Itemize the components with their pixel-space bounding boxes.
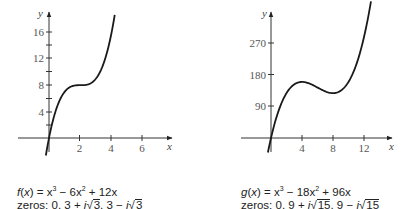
- right-x-tick-12: 12: [359, 142, 370, 154]
- left-y-axis-label: y: [37, 7, 43, 19]
- left-x-tick-2: 2: [77, 142, 83, 154]
- left-curve-fx: [46, 15, 115, 156]
- left-x-tick-6: 6: [139, 142, 145, 154]
- left-y-tick-12: 12: [33, 52, 44, 64]
- left-y-tick-8: 8: [39, 79, 45, 91]
- left-chart: y x 16 12 8 4 2 4 6: [18, 7, 172, 155]
- charts-canvas: y x 16 12 8 4 2 4 6 y x: [0, 0, 409, 209]
- left-zeros-label: zeros: 0, 3 + i√3, 3 − i√3: [17, 199, 142, 209]
- right-y-tick-180: 180: [250, 69, 267, 81]
- left-y-tick-16: 16: [33, 26, 45, 38]
- left-x-tick-4: 4: [108, 142, 114, 154]
- right-x-axis-label: x: [388, 140, 394, 152]
- left-x-axis-label: x: [166, 140, 172, 152]
- right-zeros-label: zeros: 0, 9 + i√15, 9 − i√15: [241, 199, 379, 209]
- right-x-tick-4: 4: [299, 142, 305, 154]
- right-y-tick-90: 90: [255, 100, 267, 112]
- right-y-axis-label: y: [261, 7, 267, 19]
- right-function-label: g(x) = x3 − 18x2 + 96x: [241, 182, 379, 199]
- right-y-tick-270: 270: [250, 37, 267, 49]
- right-x-tick-8: 8: [330, 142, 336, 154]
- right-caption: g(x) = x3 − 18x2 + 96x zeros: 0, 9 + i√1…: [241, 182, 379, 209]
- right-curve-gx: [268, 1, 371, 152]
- left-caption: f(x) = x3 − 6x2 + 12x zeros: 0, 3 + i√3,…: [17, 182, 142, 209]
- left-function-label: f(x) = x3 − 6x2 + 12x: [17, 182, 142, 199]
- right-chart: y x 270 180 90 4 8 12: [241, 1, 394, 154]
- left-y-tick-4: 4: [39, 106, 45, 118]
